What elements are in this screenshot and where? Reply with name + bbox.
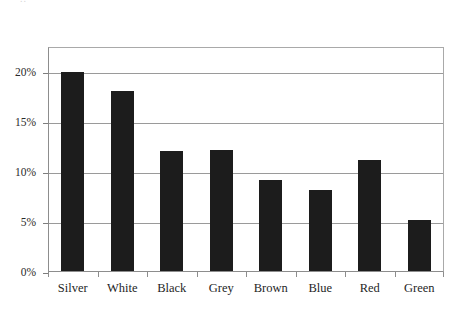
bar-silver bbox=[61, 72, 84, 271]
x-tick-label-blue: Blue bbox=[308, 281, 332, 296]
x-tick-mark bbox=[345, 272, 346, 277]
y-axis: 0%5%10%15%20% bbox=[0, 47, 44, 273]
x-tick-label-black: Black bbox=[157, 281, 186, 296]
x-tick-mark bbox=[395, 272, 396, 277]
x-tick-mark bbox=[197, 272, 198, 277]
y-tick-mark bbox=[43, 73, 48, 74]
y-tick-label: 0% bbox=[21, 267, 36, 279]
y-tick-label: 20% bbox=[15, 67, 36, 79]
x-tick-label-brown: Brown bbox=[254, 281, 288, 296]
bar-black bbox=[160, 151, 183, 271]
bar-grey bbox=[210, 150, 233, 271]
y-tick-label: 15% bbox=[15, 117, 36, 129]
y-tick-mark bbox=[43, 223, 48, 224]
bars-group bbox=[48, 47, 444, 272]
x-axis-ticks bbox=[48, 272, 444, 278]
x-tick-mark bbox=[296, 272, 297, 277]
bar-chart-figure: .. 0%5%10%15%20% SilverWhiteBlackGreyBro… bbox=[0, 0, 455, 316]
cropped-text-artifact: .. bbox=[20, 0, 27, 4]
x-tick-mark bbox=[246, 272, 247, 277]
bar-red bbox=[358, 160, 381, 271]
y-tick-label: 10% bbox=[15, 167, 36, 179]
y-tick-label: 5% bbox=[21, 217, 36, 229]
x-tick-mark bbox=[147, 272, 148, 277]
x-tick-label-silver: Silver bbox=[58, 281, 88, 296]
bar-brown bbox=[259, 180, 282, 271]
bar-white bbox=[111, 91, 134, 271]
bar-green bbox=[408, 220, 431, 271]
x-tick-mark bbox=[98, 272, 99, 277]
x-tick-label-green: Green bbox=[404, 281, 435, 296]
y-tick-mark bbox=[43, 123, 48, 124]
x-tick-label-white: White bbox=[107, 281, 138, 296]
x-tick-label-grey: Grey bbox=[209, 281, 234, 296]
x-tick-label-red: Red bbox=[360, 281, 380, 296]
x-tick-mark bbox=[443, 272, 444, 277]
bar-blue bbox=[309, 190, 332, 271]
y-tick-mark bbox=[43, 173, 48, 174]
x-tick-mark bbox=[48, 272, 49, 277]
x-axis: SilverWhiteBlackGreyBrownBlueRedGreen bbox=[48, 281, 444, 305]
